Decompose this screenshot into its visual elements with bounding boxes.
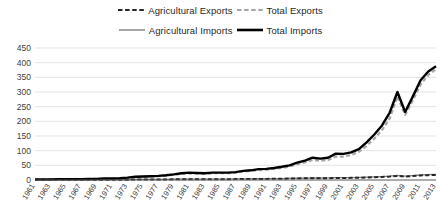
x-tick-label: 1969 bbox=[82, 182, 98, 201]
x-tick-label: 1971 bbox=[97, 182, 113, 201]
x-tick-label: 1983 bbox=[190, 182, 206, 201]
y-tick-label: 250 bbox=[17, 102, 31, 112]
x-tick-label: 1973 bbox=[113, 182, 129, 201]
x-tick-label: 2001 bbox=[329, 182, 345, 201]
x-tick-label: 2011 bbox=[406, 182, 422, 200]
series-line-total-exports bbox=[35, 69, 436, 179]
series-line-total-imports bbox=[35, 66, 436, 179]
line-chart-svg: 050100150200250300350400450 196119631965… bbox=[0, 40, 441, 219]
legend-label: Total Imports bbox=[267, 25, 323, 36]
x-tick-label: 1977 bbox=[144, 182, 160, 201]
y-tick-label: 200 bbox=[17, 116, 31, 126]
y-tick-label: 450 bbox=[17, 43, 31, 53]
y-tick-label: 150 bbox=[17, 131, 31, 141]
legend-entry-total-exports[interactable]: Total Exports bbox=[237, 5, 323, 16]
plot-area: 050100150200250300350400450 196119631965… bbox=[0, 40, 441, 219]
legend-label: Agricultural Exports bbox=[148, 5, 232, 16]
x-tick-label: 1981 bbox=[174, 182, 190, 201]
x-tick-label: 1985 bbox=[205, 182, 221, 201]
x-tick-label: 1975 bbox=[128, 182, 144, 201]
y-axis-labels: 050100150200250300350400450 bbox=[17, 43, 31, 185]
x-tick-label: 1993 bbox=[267, 182, 283, 201]
chart-container: Agricultural Exports Total Exports Agric… bbox=[0, 0, 441, 219]
x-tick-label: 2009 bbox=[390, 182, 406, 201]
data-series bbox=[35, 66, 436, 180]
x-tick-label: 1997 bbox=[298, 182, 314, 201]
legend-label: Agricultural Imports bbox=[149, 25, 233, 36]
y-tick-label: 100 bbox=[17, 146, 31, 156]
y-tick-label: 50 bbox=[22, 160, 32, 170]
legend-entry-agricultural-imports[interactable]: Agricultural Imports bbox=[119, 25, 233, 36]
dashed-line-icon bbox=[118, 5, 144, 15]
y-tick-label: 350 bbox=[17, 72, 31, 82]
chart-legend: Agricultural Exports Total Exports Agric… bbox=[0, 0, 441, 40]
x-tick-label: 1963 bbox=[36, 182, 52, 201]
legend-row-1: Agricultural Exports Total Exports bbox=[0, 0, 441, 20]
x-axis-labels: 1961196319651967196919711973197519771979… bbox=[20, 182, 437, 201]
legend-row-2: Agricultural Imports Total Imports bbox=[0, 20, 441, 40]
x-tick-label: 1995 bbox=[282, 182, 298, 201]
x-tick-label: 2013 bbox=[421, 182, 437, 201]
solid-line-icon bbox=[119, 25, 145, 35]
legend-entry-agricultural-exports[interactable]: Agricultural Exports bbox=[118, 5, 232, 16]
x-tick-label: 1965 bbox=[51, 182, 67, 201]
solid-line-icon bbox=[237, 25, 263, 35]
x-tick-label: 1991 bbox=[252, 182, 268, 201]
legend-label: Total Exports bbox=[267, 5, 323, 16]
x-tick-label: 1961 bbox=[20, 182, 36, 201]
x-tick-label: 2005 bbox=[360, 182, 376, 201]
x-tick-label: 1987 bbox=[221, 182, 237, 201]
y-tick-label: 400 bbox=[17, 58, 31, 68]
legend-entry-total-imports[interactable]: Total Imports bbox=[237, 25, 323, 36]
x-tick-label: 1999 bbox=[313, 182, 329, 201]
x-tick-label: 1979 bbox=[159, 182, 175, 201]
gridlines bbox=[35, 48, 436, 165]
x-tick-label: 2003 bbox=[344, 182, 360, 201]
x-tick-label: 2007 bbox=[375, 182, 391, 201]
x-tick-label: 1989 bbox=[236, 182, 252, 201]
dashed-line-icon bbox=[237, 5, 263, 15]
x-tick-label: 1967 bbox=[66, 182, 82, 201]
y-tick-label: 300 bbox=[17, 87, 31, 97]
